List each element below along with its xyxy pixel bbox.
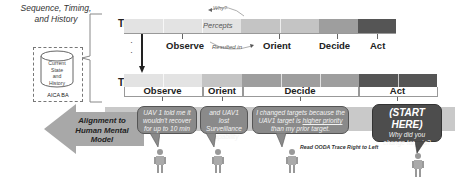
trace0-decide-segment: [319, 19, 358, 33]
tick: [377, 34, 378, 39]
bubble-line: Surveillance: [204, 125, 244, 133]
start-here-title: (START HERE): [376, 107, 438, 131]
arrow-line: Human Mental: [62, 126, 142, 136]
ellipsis-dot: ·: [130, 37, 133, 47]
aica-ba-label: AICA BA: [33, 92, 83, 98]
person-figure-icon: [285, 148, 299, 174]
cyl-line: State: [40, 67, 74, 74]
bubble-line: I changed targets because the: [256, 109, 345, 117]
separator: [163, 19, 164, 33]
resulted-in-label: Resulted in: [212, 44, 242, 50]
bubble-line: and UAV1 lost: [204, 109, 244, 125]
speech-bubble-start-here: (START HERE) Why did you change targets?: [372, 104, 442, 142]
read-direction-caption: Read OODA Trace Right to Left: [300, 144, 378, 150]
cylinder-label: Current State and History: [40, 60, 74, 86]
tick: [300, 97, 301, 101]
trace0-orient-label: Orient: [263, 40, 291, 51]
down-arrow-icon: [139, 33, 145, 73]
tick: [222, 97, 223, 101]
person-figure-icon: [411, 152, 425, 178]
speech-bubble-orient: and UAV1 lost Surveillance Capability: [200, 106, 248, 134]
tick: [279, 34, 280, 39]
underlined-text: higher priority: [303, 117, 343, 124]
trace0-act-label: Act: [370, 40, 385, 51]
bubble-text: UAV1 target is: [259, 117, 303, 124]
bubble-line: for up to 10 min: [141, 125, 193, 133]
separator: [280, 19, 281, 33]
arrow-line: Model: [62, 135, 142, 145]
bubble-line: wouldn't recover: [141, 117, 193, 125]
cyl-line: Current: [40, 60, 74, 67]
trace-0-bar: [124, 19, 455, 33]
bubble-line: UAV 1 told me it: [141, 109, 193, 117]
speech-bubble-decide: I changed targets because the UAV1 targe…: [252, 106, 349, 134]
bubble-tail: [206, 133, 216, 147]
cyl-line: History: [40, 80, 74, 87]
cyl-line: and: [40, 73, 74, 80]
bubble-line: Why did you: [376, 131, 438, 139]
trace0-observe-label: Observe: [166, 40, 204, 51]
trace0-baseline: [124, 33, 396, 34]
tick: [162, 97, 163, 101]
bubble-line: change targets?: [376, 139, 438, 147]
percepts-label: Percepts: [203, 21, 233, 30]
bubble-tail: [150, 133, 160, 147]
person-figure-icon: [153, 148, 167, 174]
person-figure-icon: [211, 148, 225, 174]
bubble-line: than my prior target.: [256, 125, 345, 133]
bubble-line: UAV1 target is higher priority: [256, 117, 345, 125]
tick: [182, 34, 183, 39]
bubble-tail: [276, 133, 286, 147]
trace0-decide-label: Decide: [319, 40, 350, 51]
tick: [337, 34, 338, 39]
traceN-act-label: Act: [359, 85, 436, 96]
traceN-decide-label: Decide: [243, 85, 357, 96]
arrow-line: Alignment to: [62, 116, 142, 126]
traceN-orient-label: Orient: [203, 85, 241, 96]
why-label: Why?: [213, 5, 227, 11]
trace0-act-segment: [358, 19, 396, 33]
traceN-observe-label: Observe: [124, 85, 201, 96]
tick: [397, 97, 398, 101]
curly-brace-icon: [80, 12, 104, 104]
alignment-label: Alignment to Human Mental Model: [62, 116, 142, 145]
speech-bubble-observe: UAV 1 told me it wouldn't recover for up…: [137, 106, 197, 134]
ellipsis-dot: ·: [130, 47, 133, 57]
